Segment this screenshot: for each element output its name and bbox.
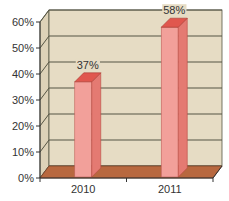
y-tick-label: 10% (12, 146, 34, 158)
y-tick-label: 0% (18, 172, 34, 184)
chart-floor (40, 166, 222, 178)
floor-surface (40, 166, 222, 178)
bar-2010 (75, 73, 101, 177)
bar-side (178, 18, 187, 177)
bar-front (161, 27, 178, 177)
y-tick-label: 30% (12, 94, 34, 106)
y-axis-labels: 0%10%20%30%40%50%60% (12, 16, 34, 184)
bar-2011 (161, 18, 187, 177)
chart-walls (40, 10, 222, 178)
x-tick-label: 2011 (158, 183, 182, 195)
chart: 0%10%20%30%40%50%60% 20102011 37%58% (0, 0, 229, 201)
bar-side (92, 73, 101, 177)
bar-front (75, 82, 92, 177)
x-axis-labels: 20102011 (71, 183, 182, 195)
x-tick-label: 2010 (71, 183, 95, 195)
data-label: 58% (163, 4, 185, 16)
y-tick-label: 50% (12, 42, 34, 54)
y-tick-label: 60% (12, 16, 34, 28)
y-tick-label: 20% (12, 120, 34, 132)
data-label: 37% (77, 59, 99, 71)
y-tick-label: 40% (12, 68, 34, 80)
